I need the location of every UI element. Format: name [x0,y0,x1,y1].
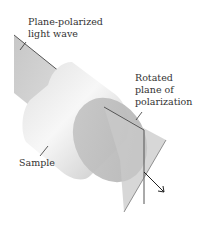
rotated-plane-leader [136,112,142,120]
rotated-plane-label-line1: Rotated [135,72,173,83]
optical-rotation-diagram: Plane-polarized light wave Rotated plane… [0,0,199,225]
rotated-plane-label-line3: polarization [135,96,192,107]
incident-wave-label-line1: Plane-polarized [28,16,103,27]
rotated-plane-label-line2: plane of [135,84,175,95]
light-direction-arrow [144,172,164,192]
sample-label: Sample [19,157,55,168]
incident-wave-label-line2: light wave [28,28,78,39]
